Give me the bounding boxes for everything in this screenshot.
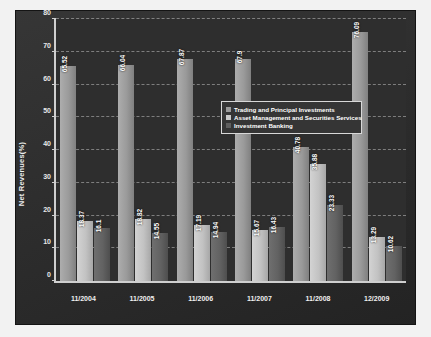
bar-fill — [194, 225, 210, 281]
bar-group: 76.0913.2910.62 — [348, 19, 406, 281]
bar-group: 67.915.6716.43 — [231, 19, 289, 281]
y-axis-tick-label: 70 — [43, 41, 51, 48]
y-axis-tick-label: 50 — [43, 107, 51, 114]
bar-value-label: 15.67 — [253, 220, 260, 236]
x-axis-tick-label: 11/2006 — [171, 288, 230, 310]
bar[interactable]: 23.33 — [327, 205, 343, 281]
bar-value-label: 16.43 — [270, 217, 277, 233]
x-axis-ticks: 11/200411/200511/200611/200711/200812/20… — [54, 288, 406, 310]
bar[interactable]: 10.62 — [386, 246, 402, 281]
bar-fill — [152, 233, 168, 281]
chart-legend[interactable]: Trading and Principal Investments Asset … — [221, 101, 362, 134]
legend-swatch-icon — [226, 115, 231, 120]
bar-fill — [352, 32, 368, 281]
bar-fill — [293, 147, 309, 281]
bar-fill — [177, 59, 193, 281]
bar-fill — [211, 232, 227, 281]
bar-value-label: 67.87 — [178, 49, 185, 65]
y-axis-tick-label: 10 — [43, 238, 51, 245]
bar-group: 67.8717.1914.94 — [173, 19, 231, 281]
bar-fill — [94, 228, 110, 281]
bar[interactable]: 16.43 — [269, 227, 285, 281]
bar[interactable]: 15.67 — [252, 230, 268, 281]
y-axis-tick-label: 60 — [43, 74, 51, 81]
bar-value-label: 14.55 — [153, 223, 160, 239]
legend-swatch-icon — [226, 107, 231, 112]
legend-label: Investment Banking — [234, 122, 293, 129]
legend-label: Asset Management and Securities Services — [234, 114, 362, 121]
bar-fill — [118, 65, 134, 281]
bar-value-label: 40.78 — [294, 137, 301, 153]
bar-value-label: 14.94 — [212, 222, 219, 238]
bar-value-label: 13.29 — [370, 227, 377, 243]
bar[interactable]: 76.09 — [352, 32, 368, 281]
bar[interactable]: 14.94 — [211, 232, 227, 281]
x-axis-tick-label: 12/2009 — [347, 288, 406, 310]
legend-item-investment-banking[interactable]: Investment Banking — [226, 122, 357, 129]
bar[interactable]: 14.55 — [152, 233, 168, 281]
y-axis-tick-label: 30 — [43, 172, 51, 179]
legend-item-asset-management[interactable]: Asset Management and Securities Services — [226, 114, 357, 121]
bar-value-label: 76.09 — [353, 22, 360, 38]
x-axis-tick-label: 11/2008 — [289, 288, 348, 310]
bar[interactable]: 67.87 — [177, 59, 193, 281]
legend-label: Trading and Principal Investments — [234, 106, 335, 113]
bar[interactable]: 65.52 — [60, 66, 76, 281]
bar-value-label: 23.33 — [328, 194, 335, 210]
bar-groups: 65.5218.3716.166.0418.8214.5567.8717.191… — [56, 19, 406, 281]
y-axis-tick-label: 40 — [43, 140, 51, 147]
bar[interactable]: 17.19 — [194, 225, 210, 281]
bar[interactable]: 18.37 — [77, 221, 93, 281]
bar[interactable]: 16.1 — [94, 228, 110, 281]
x-axis-tick-label: 11/2004 — [54, 288, 113, 310]
chart-panel: Net Revenues(%) 01020304050607080 65.521… — [16, 11, 415, 324]
bar[interactable]: 66.04 — [118, 65, 134, 281]
x-axis-tick-label: 11/2005 — [113, 288, 172, 310]
bar-value-label: 65.52 — [61, 56, 68, 72]
legend-item-trading[interactable]: Trading and Principal Investments — [226, 106, 357, 113]
bar[interactable]: 35.88 — [310, 164, 326, 282]
y-axis-tick-label: 80 — [43, 9, 51, 16]
bar[interactable]: 13.29 — [369, 237, 385, 281]
bar-group: 40.7835.8823.33 — [289, 19, 347, 281]
bar-group: 65.5218.3716.1 — [56, 19, 114, 281]
y-axis-tick-label: 0 — [47, 271, 51, 278]
bar-fill — [269, 227, 285, 281]
bar-value-label: 16.1 — [95, 220, 102, 233]
legend-swatch-icon — [226, 123, 231, 128]
bar-fill — [369, 237, 385, 281]
bar[interactable]: 18.82 — [135, 219, 151, 281]
x-axis-tick-label: 11/2007 — [230, 288, 289, 310]
bar[interactable]: 67.9 — [235, 59, 251, 281]
y-axis-title: Net Revenues(%) — [17, 142, 26, 206]
plot-area: 01020304050607080 65.5218.3716.166.0418.… — [54, 19, 406, 283]
y-axis-tick-label: 20 — [43, 205, 51, 212]
bar-fill — [135, 219, 151, 281]
bar-fill — [310, 164, 326, 282]
bar-value-label: 10.62 — [387, 236, 394, 252]
bar-value-label: 18.37 — [78, 211, 85, 227]
bar-value-label: 17.19 — [195, 215, 202, 231]
bar-group: 66.0418.8214.55 — [114, 19, 172, 281]
bar-fill — [252, 230, 268, 281]
bar-fill — [235, 59, 251, 281]
bar[interactable]: 40.78 — [293, 147, 309, 281]
bar-fill — [77, 221, 93, 281]
chart-screenshot: Net Revenues(%) 01020304050607080 65.521… — [0, 0, 431, 337]
bar-value-label: 66.04 — [119, 55, 126, 71]
bar-fill — [327, 205, 343, 281]
bar-value-label: 18.82 — [136, 209, 143, 225]
bar-value-label: 67.9 — [236, 50, 243, 63]
bar-value-label: 35.88 — [311, 153, 318, 169]
bar-fill — [60, 66, 76, 281]
